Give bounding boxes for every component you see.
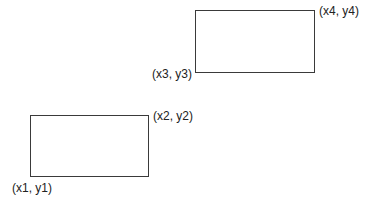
corner-label-x1-y1: (x1, y1) bbox=[12, 181, 52, 195]
corner-label-x3-y3: (x3, y3) bbox=[152, 67, 192, 81]
rectangle-bottom-left bbox=[30, 115, 149, 177]
corner-label-x2-y2: (x2, y2) bbox=[153, 109, 193, 123]
corner-label-x4-y4: (x4, y4) bbox=[319, 4, 359, 18]
rectangle-top-right bbox=[195, 10, 315, 73]
